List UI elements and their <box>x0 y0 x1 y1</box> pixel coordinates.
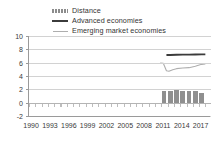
chart-legend: Distance Advanced economies Emerging mar… <box>52 6 166 35</box>
y-axis-tick <box>26 89 29 90</box>
x-tick-label: 2014 <box>174 122 190 129</box>
gridline <box>29 36 211 37</box>
plot-area <box>28 36 211 116</box>
x-tick-label: 1993 <box>42 122 58 129</box>
y-tick-label: 10 <box>15 33 23 40</box>
y-tick-label: 2 <box>19 86 23 93</box>
bar-swatch-icon <box>52 9 68 13</box>
x-tick-label: 2008 <box>136 122 152 129</box>
x-tick-label: 2011 <box>155 122 170 129</box>
y-tick-label: 6 <box>19 59 23 66</box>
y-tick-label: 0 <box>19 99 23 106</box>
gridline <box>29 89 211 90</box>
line-path <box>160 63 205 71</box>
legend-item-distance: Distance <box>52 6 166 15</box>
x-minor-ticks <box>29 104 211 107</box>
legend-item-emerging-market-economies: Emerging market economies <box>52 26 166 35</box>
y-tick-label: 4 <box>19 73 23 80</box>
chart-figure: Distance Advanced economies Emerging mar… <box>0 0 215 150</box>
gridline <box>29 63 211 64</box>
y-axis: 1086420-2 <box>0 36 26 116</box>
y-tick-label: -2 <box>17 113 23 120</box>
line-swatch-dark-icon <box>52 16 68 25</box>
x-axis-line <box>28 116 210 117</box>
y-axis-tick <box>26 36 29 37</box>
plot-wrapper: 1086420-2 199019931996199920022005200820… <box>0 36 215 130</box>
legend-label-advanced-economies: Advanced economies <box>72 16 143 25</box>
x-tick-label: 1990 <box>23 122 39 129</box>
y-axis-tick <box>26 76 29 77</box>
y-tick-label: 8 <box>19 46 23 53</box>
line-swatch-light-icon <box>52 26 68 35</box>
legend-item-advanced-economies: Advanced economies <box>52 16 166 25</box>
x-axis: 1990199319961999200220052008201120142017 <box>28 120 210 134</box>
legend-label-distance: Distance <box>72 6 101 15</box>
y-axis-tick <box>26 49 29 50</box>
x-tick-label: 1996 <box>61 122 77 129</box>
gridline <box>29 49 211 50</box>
y-axis-tick <box>26 63 29 64</box>
x-tick-label: 2005 <box>117 122 133 129</box>
x-tick-label: 2017 <box>193 122 209 129</box>
line-path <box>166 54 205 55</box>
legend-label-emerging-market-economies: Emerging market economies <box>72 26 166 35</box>
gridline <box>29 76 211 77</box>
x-tick-label: 2002 <box>99 122 115 129</box>
x-tick-label: 1999 <box>80 122 96 129</box>
